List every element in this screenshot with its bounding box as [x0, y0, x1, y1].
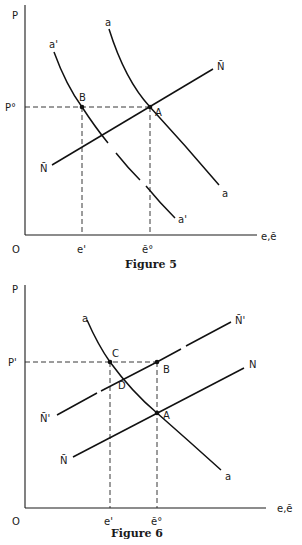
point-label-b: B — [79, 92, 86, 103]
x-tick-e-tilde: ẽ° — [142, 244, 153, 255]
curve-label-n-bar-right: N̄ — [217, 60, 224, 72]
price-tick-label: P° — [5, 102, 16, 113]
price-tick-label: P' — [8, 357, 17, 368]
point-label-a: A — [163, 410, 170, 421]
curve-label-a-top: a — [105, 17, 111, 28]
figure-6: P P' O e' ẽ° e,ẽ a a N̄' N̄' N̄ N C B D … — [8, 284, 292, 540]
point-label-d: D — [118, 380, 126, 391]
point-a — [148, 105, 153, 110]
curve-label-a-top: a — [82, 313, 88, 324]
diagram-canvas: P P° O e' ẽ° e,ẽ a a a' a' N̄ N̄ B A Fig… — [0, 0, 302, 545]
point-label-b: B — [163, 364, 170, 375]
point-a — [155, 411, 160, 416]
curve-label-a-prime-bottom: a' — [178, 214, 187, 225]
curve-label-a-prime-top: a' — [49, 39, 58, 50]
x-axis-label: e,ẽ — [261, 231, 276, 242]
point-c — [108, 360, 113, 365]
point-label-a: A — [155, 107, 162, 118]
x-tick-e-prime: e' — [104, 516, 113, 527]
curve-a — [87, 320, 221, 470]
figure-5: P P° O e' ẽ° e,ẽ a a a' a' N̄ N̄ B A Fig… — [5, 5, 276, 271]
figure-caption: Figure 6 — [111, 527, 163, 540]
curve-label-a-bottom: a — [222, 188, 228, 199]
point-label-c: C — [112, 348, 119, 359]
point-b — [80, 105, 85, 110]
curve-label-n-bar-left: N̄ — [60, 454, 67, 466]
y-axis-label: P — [12, 10, 18, 21]
point-b — [155, 360, 160, 365]
origin-label: O — [12, 244, 20, 255]
curve-label-n-bar-prime-right: N̄' — [235, 314, 245, 326]
x-tick-e-tilde: ẽ° — [151, 516, 162, 527]
curve-label-a-bottom: a — [225, 471, 231, 482]
origin-label: O — [12, 516, 20, 527]
curve-a-prime — [54, 52, 175, 218]
curve-label-n-right: N — [249, 359, 256, 370]
curve-label-n-bar-left: N̄ — [40, 162, 47, 174]
x-axis-label: e,ẽ — [277, 503, 292, 514]
curve-label-n-bar-prime-left: N̄' — [40, 412, 50, 424]
figure-caption: Figure 5 — [125, 258, 177, 271]
y-axis-label: P — [12, 284, 18, 295]
x-tick-e-prime: e' — [77, 244, 86, 255]
